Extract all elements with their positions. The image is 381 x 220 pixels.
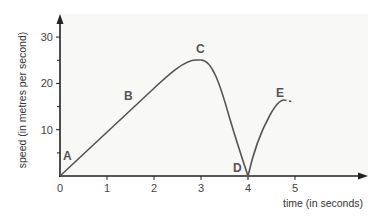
x-axis-arrow-icon xyxy=(358,173,368,180)
y-axis-arrow-icon xyxy=(57,14,64,24)
x-tick-0: 0 xyxy=(57,182,63,194)
speed-curve-dashed-continuation xyxy=(284,100,294,102)
point-label-c: C xyxy=(196,42,205,56)
speed-curve xyxy=(60,60,284,176)
x-tick-1: 1 xyxy=(104,182,110,194)
y-tick-20: 20 xyxy=(41,77,53,89)
point-label-d: D xyxy=(233,161,242,175)
x-axis-title: time (in seconds) xyxy=(283,197,363,209)
x-axis xyxy=(59,173,368,181)
point-label-e: E xyxy=(276,86,284,100)
x-tick-4: 4 xyxy=(245,182,251,194)
point-label-b: B xyxy=(124,89,133,103)
speed-time-chart: 10 20 30 0 1 2 3 4 5 time (in seconds) s… xyxy=(0,0,381,220)
x-tick-5: 5 xyxy=(292,182,298,194)
x-tick-3: 3 xyxy=(198,182,204,194)
y-tick-30: 30 xyxy=(41,31,53,43)
y-tick-10: 10 xyxy=(41,124,53,136)
point-label-a: A xyxy=(63,149,72,163)
y-axis-title: speed (in metres per second) xyxy=(16,32,28,169)
x-tick-2: 2 xyxy=(151,182,157,194)
